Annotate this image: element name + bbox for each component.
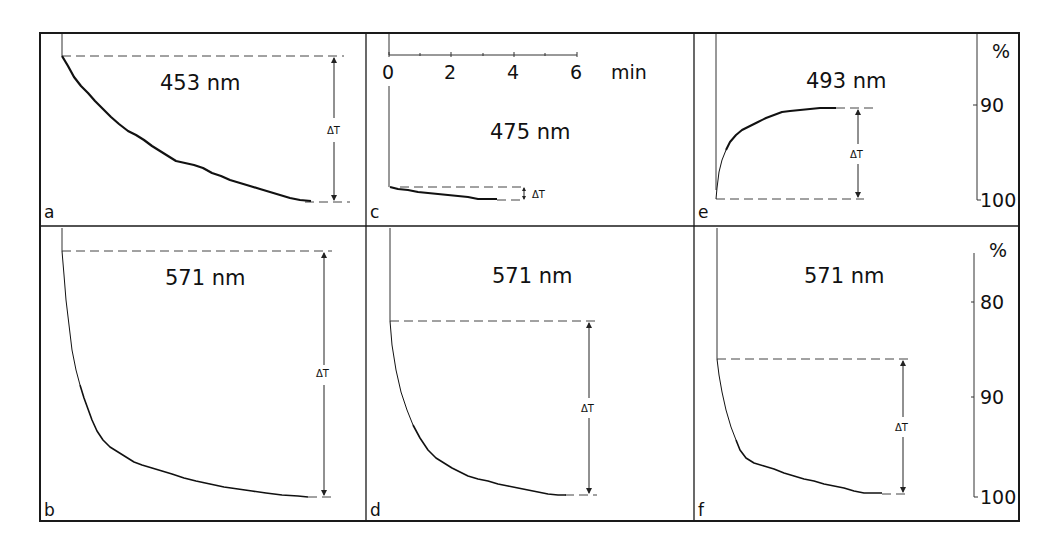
wavelength-label: 493 nm — [806, 69, 887, 93]
wavelength-label: 571 nm — [165, 266, 246, 290]
time-tick: 0 — [382, 61, 394, 83]
panel-letter: d — [370, 500, 381, 520]
wavelength-label: 571 nm — [492, 264, 573, 288]
delta-t-label: ΔT — [895, 422, 909, 433]
panel-letter: b — [44, 500, 55, 520]
time-tick: 6 — [570, 61, 582, 83]
panel-c: 0 2 4 6 min ΔT 475 nm c — [370, 34, 647, 222]
wavelength-label: 571 nm — [804, 264, 885, 288]
delta-t-label: ΔT — [532, 189, 546, 200]
figure-canvas: ΔT 453 nm a ΔT 571 nm b 0 2 4 — [0, 0, 1055, 548]
scale-tick: 80 — [980, 291, 1004, 313]
delta-t-label: ΔT — [850, 149, 864, 160]
panel-letter: f — [698, 500, 705, 520]
scale-bottom: % 80 90 100 — [971, 239, 1016, 508]
wavelength-label: 475 nm — [490, 120, 571, 144]
panel-b: ΔT 571 nm b — [44, 228, 335, 520]
wavelength-label: 453 nm — [160, 71, 241, 95]
scale-tick: 100 — [980, 486, 1016, 508]
time-tick: 2 — [444, 61, 456, 83]
panel-a: ΔT 453 nm a — [44, 34, 350, 222]
scale-tick: 90 — [980, 94, 1004, 116]
panel-letter: a — [44, 202, 54, 222]
panel-f: ΔT 571 nm f — [698, 228, 911, 520]
scale-top: % 90 100 — [973, 34, 1016, 211]
delta-t-label: ΔT — [327, 125, 341, 136]
delta-t-label: ΔT — [581, 403, 595, 414]
time-unit: min — [611, 61, 647, 83]
scale-tick: 90 — [980, 386, 1004, 408]
panel-e: ΔT 493 nm e — [698, 34, 887, 222]
scale-tick: 100 — [980, 189, 1016, 211]
panel-d: ΔT 571 nm d — [370, 228, 597, 520]
panel-letter: c — [370, 202, 379, 222]
panel-letter: e — [698, 202, 708, 222]
time-tick: 4 — [507, 61, 519, 83]
delta-t-label: ΔT — [316, 368, 330, 379]
scale-unit: % — [989, 239, 1007, 261]
scale-unit: % — [992, 40, 1010, 62]
